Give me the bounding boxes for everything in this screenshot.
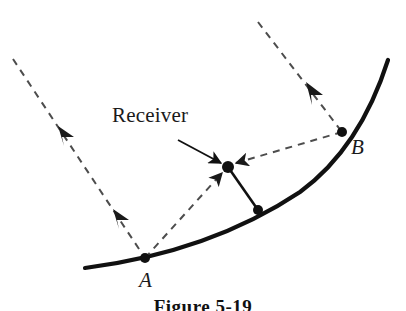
incoming-ray-left-arrowhead-1 — [58, 126, 74, 146]
point-b-dot — [337, 127, 347, 137]
incoming-ray-left-group — [13, 59, 145, 258]
reflected-ray-from-b-group — [236, 132, 342, 163]
incoming-ray-left-arrowhead-2 — [113, 209, 129, 229]
figure-caption: Figure 5-19 — [0, 296, 406, 311]
incoming-ray-right-arrowhead-1 — [306, 82, 323, 105]
receiver-label: Receiver — [112, 103, 188, 128]
receiver-dot — [222, 161, 234, 173]
point-b-label: B — [351, 135, 364, 160]
incoming-ray-left — [13, 59, 145, 258]
incoming-ray-right-group — [258, 22, 342, 132]
point-a-label: A — [139, 268, 152, 293]
point-a-dot — [140, 253, 150, 263]
reflected-ray-from-b — [236, 132, 342, 163]
strut-base-dot — [253, 205, 263, 215]
figure-diagram — [0, 0, 406, 311]
receiver-leader-line — [178, 140, 221, 163]
figure-container: Receiver A B Figure 5-19 — [0, 0, 406, 311]
incoming-ray-right — [258, 22, 342, 132]
receiver-support-strut — [228, 167, 258, 210]
